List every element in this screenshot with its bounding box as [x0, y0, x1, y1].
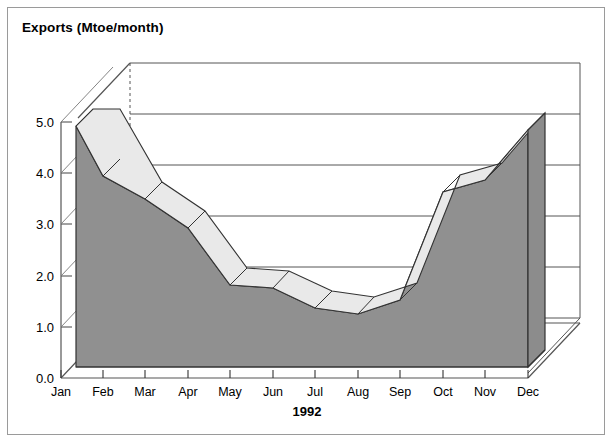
xtick-label-jan: Jan — [43, 385, 79, 399]
ytick-label-3: 3.0 — [18, 217, 54, 232]
xtick-label-oct: Oct — [425, 385, 461, 399]
xtick-label-dec: Dec — [510, 385, 546, 399]
x-axis-label: 1992 — [0, 404, 614, 419]
xtick-label-mar: Mar — [127, 385, 163, 399]
xtick-label-apr: Apr — [170, 385, 206, 399]
xtick-label-nov: Nov — [467, 385, 503, 399]
xtick-label-sep: Sep — [382, 385, 418, 399]
ytick-label-2: 2.0 — [18, 269, 54, 284]
ytick-label-0: 0.0 — [18, 371, 54, 386]
y-tick-marks — [61, 122, 72, 327]
xtick-label-jul: Jul — [297, 385, 333, 399]
x-tick-marks — [61, 370, 528, 378]
xtick-label-jun: Jun — [255, 385, 291, 399]
area-chart-plot — [0, 0, 614, 444]
area-right-side-face — [528, 113, 545, 367]
xtick-label-feb: Feb — [85, 385, 121, 399]
chart-figure: Exports (Mtoe/month) — [0, 0, 614, 444]
ytick-label-4: 4.0 — [18, 166, 54, 181]
xtick-label-aug: Aug — [340, 385, 376, 399]
xtick-label-may: May — [212, 385, 248, 399]
ytick-label-1: 1.0 — [18, 320, 54, 335]
ytick-label-5: 5.0 — [18, 115, 54, 130]
